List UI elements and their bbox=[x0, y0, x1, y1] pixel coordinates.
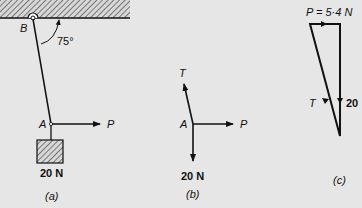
tension-t-label: T bbox=[179, 67, 187, 79]
panel-a: B 75° A P 20 N (a) bbox=[0, 0, 130, 202]
joint-a-label: A bbox=[179, 118, 187, 130]
tension-direction-icon bbox=[322, 98, 329, 104]
rod-ab bbox=[33, 19, 51, 124]
force-p-value-label: P = 5·4 N bbox=[306, 6, 352, 18]
panel-b: T A P 20 N (b) bbox=[179, 67, 248, 200]
weight-label: 20 N bbox=[181, 170, 204, 182]
weight-label: 20 N bbox=[40, 167, 63, 179]
panel-c: P = 5·4 N T 20 (c) bbox=[306, 6, 358, 186]
force-p-label: P bbox=[107, 118, 115, 130]
ceiling-support bbox=[0, 0, 130, 18]
weight-block bbox=[37, 140, 63, 163]
p-direction-icon bbox=[321, 21, 327, 27]
weight-value-label: 20 bbox=[346, 97, 358, 109]
caption-b: (b) bbox=[186, 188, 200, 200]
tension-t-label: T bbox=[309, 97, 317, 109]
pin-b-label: B bbox=[20, 22, 27, 34]
caption-c: (c) bbox=[333, 174, 346, 186]
caption-a: (a) bbox=[45, 190, 59, 202]
force-triangle bbox=[310, 24, 340, 136]
weight-direction-icon bbox=[337, 98, 343, 104]
angle-label: 75° bbox=[57, 35, 74, 47]
force-diagram: B 75° A P 20 N (a) T A P 20 N (b) P = 5·… bbox=[0, 0, 362, 208]
joint-a-label: A bbox=[38, 118, 46, 130]
force-p-label: P bbox=[240, 118, 248, 130]
